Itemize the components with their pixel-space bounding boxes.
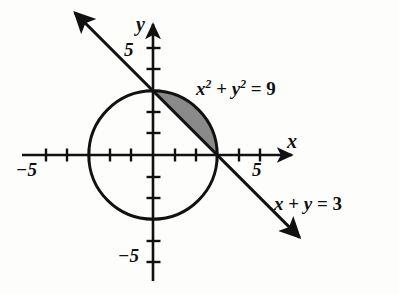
- x-tick-label-minus-5: −5: [16, 160, 37, 179]
- math-figure-circle-line: x2 + y2 = 9 x + y = 3 x y 5 −5 5 −5: [0, 0, 399, 294]
- line-equation-label: x + y = 3: [274, 194, 342, 213]
- y-axis-label: y: [136, 14, 145, 34]
- y-tick-label-minus-5: −5: [118, 246, 139, 265]
- circle-equation-label: x2 + y2 = 9: [196, 79, 276, 98]
- x-tick-label-5: 5: [252, 160, 262, 179]
- x-axis-label: x: [287, 131, 297, 151]
- graph-overlay: [0, 0, 399, 294]
- y-tick-label-5: 5: [124, 40, 134, 59]
